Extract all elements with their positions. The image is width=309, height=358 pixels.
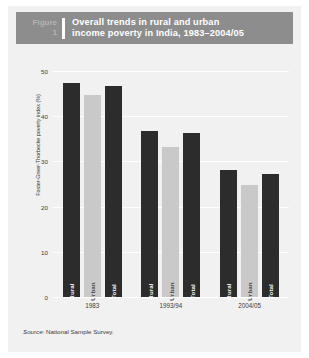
y-axis-tick-label: 20 — [41, 203, 48, 210]
bar-group: RuralUrbanTotal — [61, 72, 124, 298]
x-axis-group-labels: 19831993/942004/05 — [53, 302, 289, 309]
figure-title-line-2: income poverty in India, 1983–2004/05 — [72, 28, 244, 40]
y-axis-tick-label: 40 — [41, 113, 48, 120]
page-title: Overall trends in rural and urban income… — [65, 17, 244, 40]
y-axis-title: Foster-Greer-Thorbecke poverty index (%) — [35, 75, 41, 215]
plot-area: 01020304050 RuralUrbanTotalRuralUrbanTot… — [53, 72, 289, 298]
bar-rural-1983: Rural — [63, 83, 80, 298]
y-axis-tick-label: 0 — [45, 294, 48, 301]
bar-group: RuralUrbanTotal — [139, 72, 202, 298]
figure-title-line-1: Overall trends in rural and urban — [72, 17, 244, 29]
source-text: National Sample Survey. — [46, 328, 114, 335]
bar-group: RuralUrbanTotal — [218, 72, 281, 298]
x-axis-category-label: 1993/94 — [139, 302, 202, 309]
chart-area: Foster-Greer-Thorbecke poverty index (%)… — [16, 50, 293, 312]
x-axis-baseline — [53, 297, 289, 298]
source-label: Source: — [23, 328, 44, 335]
figure-panel: Figure 1 Overall trends in rural and urb… — [8, 6, 301, 352]
bar-total-1993-94: Total — [183, 133, 200, 298]
source-note: Source: National Sample Survey. — [23, 328, 114, 335]
bar-rural-1993-94: Rural — [141, 131, 158, 298]
x-axis-category-label: 1983 — [61, 302, 124, 309]
bar-urban-1983: Urban — [84, 95, 101, 298]
bar-total-1983: Total — [105, 86, 122, 298]
x-axis-category-label: 2004/05 — [218, 302, 281, 309]
figure-number-block: Figure 1 — [16, 18, 62, 39]
y-axis-tick-label: 30 — [41, 158, 48, 165]
bars-layer: RuralUrbanTotalRuralUrbanTotalRuralUrban… — [53, 72, 289, 298]
bar-urban-1993-94: Urban — [162, 147, 179, 298]
figure-word: Figure — [16, 18, 57, 29]
y-axis-tick-label: 10 — [41, 248, 48, 255]
y-axis-tick-label: 50 — [41, 68, 48, 75]
bar-rural-2004-05: Rural — [220, 170, 237, 298]
bar-total-2004-05: Total — [262, 174, 279, 298]
bar-urban-2004-05: Urban — [241, 185, 258, 298]
figure-header: Figure 1 Overall trends in rural and urb… — [16, 12, 293, 44]
figure-number: 1 — [16, 28, 57, 39]
